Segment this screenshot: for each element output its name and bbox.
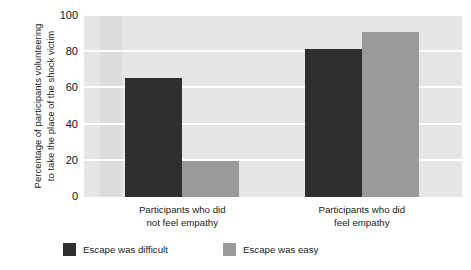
y-axis-tick-label: 40: [50, 119, 78, 130]
legend-label: Escape was easy: [243, 244, 318, 255]
legend-swatch: [63, 243, 76, 256]
y-axis-title-line-1: Percentage of participants volunteering: [32, 6, 45, 206]
legend-label: Escape was difficult: [83, 244, 168, 255]
y-axis-tick-label: 100: [50, 10, 78, 21]
bar: [362, 32, 419, 197]
x-axis-tick-labels: Participants who didnot feel empathyPart…: [84, 200, 462, 234]
y-axis-tick-label: 20: [50, 155, 78, 166]
x-axis-tick-label-line: feel empathy: [287, 217, 437, 230]
y-axis-tick-label: 60: [50, 82, 78, 93]
x-axis-tick-label-line: Participants who did: [287, 204, 437, 217]
y-axis-tick-label: 80: [50, 46, 78, 57]
bar-chart: Percentage of participants volunteering …: [0, 0, 471, 270]
legend-item[interactable]: Escape was easy: [223, 243, 318, 256]
x-axis-tick-label-line: not feel empathy: [107, 217, 257, 230]
legend-swatch: [223, 243, 236, 256]
bars: [84, 16, 462, 197]
legend-item[interactable]: Escape was difficult: [63, 243, 168, 256]
y-axis-tick-labels: 020406080100: [48, 0, 78, 210]
bar: [125, 78, 182, 197]
plot-area: [84, 16, 462, 197]
x-axis-tick-label-line: Participants who did: [107, 204, 257, 217]
y-axis-tick-label: 0: [50, 191, 78, 202]
x-axis-tick-label: Participants who didfeel empathy: [287, 204, 437, 229]
bar: [182, 161, 239, 197]
chart-legend: Escape was difficultEscape was easy: [0, 240, 471, 262]
x-axis-tick-label: Participants who didnot feel empathy: [107, 204, 257, 229]
bar: [305, 49, 362, 197]
y-axis-title: Percentage of participants volunteering …: [0, 0, 36, 210]
